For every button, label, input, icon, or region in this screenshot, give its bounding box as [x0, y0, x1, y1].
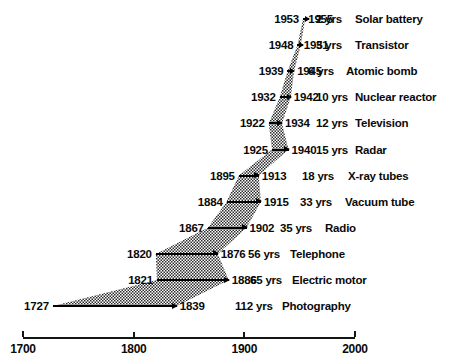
- axis-tick-label: 1800: [121, 342, 147, 356]
- lag-arrow: [208, 227, 247, 229]
- timeline-row: 194819513 yrsTransistor: [0, 37, 450, 53]
- invention-lag-timeline-chart: 195319552 yrsSolar battery194819513 yrsT…: [0, 0, 450, 364]
- lag-years-label: 65 yrs: [250, 272, 282, 288]
- x-axis: 1700180019002000: [0, 0, 450, 34]
- lag-years-label: 10 yrs: [316, 89, 348, 105]
- application-year-label: 1940: [292, 142, 317, 158]
- timeline-row: 1932194210 yrsNuclear reactor: [0, 89, 450, 105]
- invention-label: Telephone: [290, 246, 345, 262]
- discovery-year-label: 1925: [243, 142, 268, 158]
- timeline-row: 17271839112 yrsPhotography: [0, 298, 450, 314]
- axis-tick: [133, 332, 135, 338]
- timeline-row: 1867190235 yrsRadio: [0, 220, 450, 236]
- axis-line: [23, 337, 355, 339]
- application-year-label: 1942: [294, 89, 319, 105]
- application-year-label: 1934: [285, 115, 310, 131]
- axis-tick: [354, 331, 356, 337]
- timeline-row: 1884191533 yrsVacuum tube: [0, 194, 450, 210]
- timeline-row: 1821188665 yrsElectric motor: [0, 272, 450, 288]
- timeline-row: 1820187656 yrsTelephone: [0, 246, 450, 262]
- timeline-row: 1895191318 yrsX-ray tubes: [0, 168, 450, 184]
- invention-label: Photography: [282, 298, 351, 314]
- discovery-year-label: 1867: [179, 220, 204, 236]
- lag-arrow: [227, 201, 261, 203]
- invention-label: Television: [355, 115, 408, 131]
- lag-years-label: 18 yrs: [302, 168, 334, 184]
- lag-years-label: 33 yrs: [300, 194, 332, 210]
- lag-arrow: [297, 44, 303, 46]
- application-year-label: 1915: [264, 194, 289, 210]
- invention-label: Nuclear reactor: [355, 89, 436, 105]
- invention-label: Vacuum tube: [345, 194, 414, 210]
- invention-label: Electric motor: [292, 272, 367, 288]
- invention-label: Transistor: [355, 37, 409, 53]
- discovery-year-label: 1727: [24, 298, 49, 314]
- discovery-year-label: 1821: [128, 272, 153, 288]
- discovery-year-label: 1932: [251, 89, 276, 105]
- discovery-year-label: 1895: [210, 168, 235, 184]
- axis-tick-label: 1900: [232, 342, 258, 356]
- invention-label: Radar: [355, 142, 387, 158]
- invention-label: X-ray tubes: [348, 168, 408, 184]
- axis-tick: [22, 331, 24, 337]
- lag-arrow: [156, 253, 218, 255]
- invention-label: Atomic bomb: [346, 63, 417, 79]
- lag-arrow: [53, 305, 177, 307]
- timeline-row: 193919456 yrsAtomic bomb: [0, 63, 450, 79]
- invention-label: Radio: [325, 220, 356, 236]
- timeline-row: 1922193412 yrsTelevision: [0, 115, 450, 131]
- lag-years-label: 35 yrs: [280, 220, 312, 236]
- lag-years-label: 15 yrs: [316, 142, 348, 158]
- lag-arrow: [239, 175, 259, 177]
- discovery-year-label: 1820: [127, 246, 152, 262]
- lag-arrow: [157, 279, 229, 281]
- application-year-label: 1902: [250, 220, 275, 236]
- discovery-year-label: 1884: [198, 194, 223, 210]
- discovery-year-label: 1948: [269, 37, 294, 53]
- discovery-year-label: 1922: [240, 115, 265, 131]
- lag-years-label: 6 yrs: [308, 63, 334, 79]
- lag-arrow: [287, 70, 294, 72]
- lag-arrow: [272, 149, 289, 151]
- axis-tick-label: 2000: [342, 342, 368, 356]
- lag-years-label: 12 yrs: [316, 115, 348, 131]
- application-year-label: 1876: [221, 246, 246, 262]
- axis-tick-label: 1700: [10, 342, 36, 356]
- discovery-year-label: 1939: [259, 63, 284, 79]
- timeline-row: 1925194015 yrsRadar: [0, 142, 450, 158]
- lag-arrow: [280, 96, 291, 98]
- application-year-label: 1913: [262, 168, 287, 184]
- axis-tick: [243, 332, 245, 338]
- application-year-label: 1839: [180, 298, 205, 314]
- lag-years-label: 56 yrs: [248, 246, 280, 262]
- lag-arrow: [269, 122, 282, 124]
- lag-years-label: 3 yrs: [316, 37, 342, 53]
- lag-years-label: 112 yrs: [235, 298, 273, 314]
